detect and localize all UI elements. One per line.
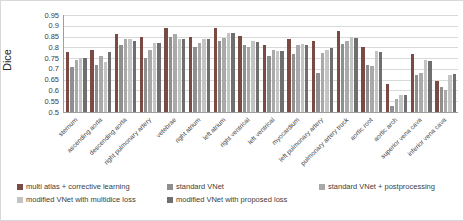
bar: [247, 47, 250, 112]
x-axis-label: left atrium: [201, 116, 226, 141]
bar: [263, 45, 266, 112]
legend-item: standard VNet: [167, 181, 319, 192]
bar: [399, 95, 402, 112]
bar: [124, 39, 127, 112]
bar: [361, 47, 364, 112]
bar: [404, 95, 407, 112]
bar: [128, 39, 131, 112]
bar: [341, 44, 344, 112]
bar: [115, 34, 118, 112]
x-axis-label: right atrium: [173, 116, 201, 144]
bar: [350, 37, 353, 112]
y-tick-label: 0.55: [1, 97, 59, 106]
bar: [214, 28, 217, 112]
bar: [169, 37, 172, 112]
bar-group: [163, 15, 188, 112]
bar: [133, 41, 136, 112]
bar: [75, 60, 78, 112]
bar: [386, 84, 389, 112]
bar: [379, 52, 382, 112]
legend-swatch: [17, 197, 23, 203]
bar-group: [113, 15, 138, 112]
bar: [164, 28, 167, 112]
bar: [79, 58, 82, 112]
bar: [292, 54, 295, 112]
legend-label: modified VNet with proposed loss: [176, 194, 287, 205]
bar: [287, 39, 290, 112]
bar: [193, 47, 196, 112]
x-axis-label: right pulmonary artery: [102, 116, 152, 166]
bar: [104, 62, 107, 112]
plot-area: [63, 15, 458, 113]
x-axis-label: pulmonary artery truck: [298, 116, 349, 167]
x-axis-label: sternum: [57, 116, 79, 138]
bar: [70, 67, 73, 112]
bar: [207, 39, 210, 112]
bar: [345, 41, 348, 112]
dice-bar-chart-figure: Dice 0.950.90.850.80.750.70.650.60.550.5…: [0, 0, 464, 221]
bar: [428, 61, 431, 112]
bar: [238, 36, 241, 113]
x-axis-label: aortic root: [348, 116, 373, 141]
bar: [144, 58, 147, 112]
bar-group: [286, 15, 311, 112]
bar: [140, 37, 143, 112]
y-tick-label: 0.85: [1, 32, 59, 41]
bar: [366, 65, 369, 112]
legend-swatch: [167, 197, 173, 203]
bar-group: [335, 15, 360, 112]
bar-group: [236, 15, 261, 112]
y-tick-label: 0.5: [1, 108, 59, 117]
legend-label: modified VNet with multidice loss: [26, 194, 136, 205]
bar-group: [138, 15, 163, 112]
bar: [153, 43, 156, 112]
y-tick-label: 0.9: [1, 21, 59, 30]
bar: [280, 51, 283, 112]
bar-group: [360, 15, 385, 112]
bar: [321, 53, 324, 112]
bar: [276, 51, 279, 112]
x-axis-label: left pulmonary artery: [278, 116, 325, 163]
y-tick-label: 0.95: [1, 11, 59, 20]
bar: [251, 41, 254, 112]
bar-group: [384, 15, 409, 112]
y-tick-label: 0.7: [1, 64, 59, 73]
legend-item: modified VNet with proposed loss: [167, 194, 319, 205]
bar: [305, 45, 308, 112]
bar: [419, 73, 422, 112]
bar: [157, 43, 160, 112]
bar: [272, 50, 275, 113]
y-tick-label: 0.8: [1, 43, 59, 52]
legend-item: modified VNet with multidice loss: [17, 194, 167, 205]
bar: [148, 50, 151, 113]
bar: [99, 56, 102, 112]
bar: [173, 34, 176, 112]
bar: [178, 39, 181, 112]
legend-label: standard VNet: [176, 181, 224, 192]
bar: [440, 87, 443, 112]
bar: [312, 41, 315, 112]
bar: [415, 75, 418, 112]
bar-group: [433, 15, 458, 112]
bar: [453, 74, 456, 112]
bar: [218, 41, 221, 112]
bar: [301, 44, 304, 112]
bar: [66, 52, 69, 112]
legend-label: standard VNet + postprocessing: [328, 181, 435, 192]
bar-group: [409, 15, 434, 112]
bar: [222, 38, 225, 112]
legend-label: multi atlas + corrective learning: [26, 181, 130, 192]
bar-group: [64, 15, 89, 112]
y-tick-label: 0.75: [1, 54, 59, 63]
bar-group: [89, 15, 114, 112]
legend-item: standard VNet + postprocessing: [319, 181, 457, 192]
bar: [108, 52, 111, 112]
bar-group: [187, 15, 212, 112]
bar: [444, 90, 447, 112]
bar: [83, 58, 86, 112]
bar-group: [310, 15, 335, 112]
bar: [198, 43, 201, 112]
bar: [202, 39, 205, 112]
bar: [424, 60, 427, 112]
bar: [256, 42, 259, 112]
